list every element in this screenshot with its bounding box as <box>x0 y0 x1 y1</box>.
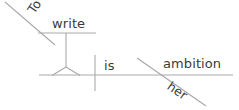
word-is: is <box>104 59 115 72</box>
diagram-strokes-layer <box>0 0 239 110</box>
word-write: write <box>52 17 85 30</box>
sentence-diagram: To write is ambition her <box>0 0 239 110</box>
pedestal-right-leg <box>66 67 80 76</box>
word-ambition: ambition <box>163 57 221 70</box>
pedestal-left-leg <box>52 67 66 76</box>
